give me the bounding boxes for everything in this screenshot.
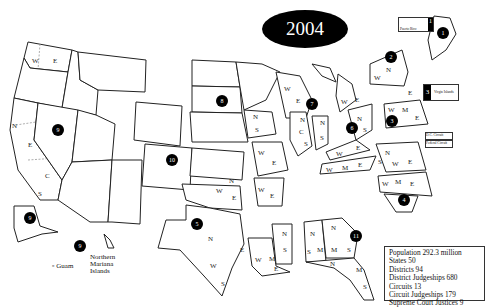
svg-text:W: W [382, 180, 389, 188]
svg-text:W: W [32, 57, 39, 65]
svg-text:N: N [330, 260, 335, 268]
svg-text:E: E [415, 114, 419, 122]
svg-text:S: S [307, 248, 311, 256]
svg-text:N: N [357, 115, 362, 123]
virgin-islands-inset: 3 Virgin Islands [423, 84, 459, 101]
svg-text:5: 5 [196, 221, 199, 227]
svg-text:6: 6 [351, 125, 354, 131]
svg-text:2: 2 [390, 54, 393, 60]
svg-text:11: 11 [353, 233, 359, 239]
svg-text:E: E [296, 97, 300, 105]
svg-text:N: N [229, 177, 234, 185]
state-minnesota [236, 62, 280, 110]
state-colorado [142, 144, 192, 190]
svg-text:W: W [392, 160, 399, 168]
svg-text:S: S [221, 280, 225, 288]
svg-text:E: E [355, 96, 359, 104]
svg-text:W: W [374, 74, 381, 82]
state-michigan-upper [312, 64, 336, 82]
svg-text:9: 9 [29, 215, 32, 221]
svg-text:N: N [12, 122, 17, 130]
state-kentucky [326, 140, 370, 160]
svg-text:E: E [270, 192, 274, 200]
svg-text:7: 7 [311, 101, 314, 107]
state-hawaii [104, 234, 114, 248]
svg-text:W: W [258, 149, 265, 157]
state-florida [306, 258, 374, 300]
svg-text:3: 3 [391, 118, 394, 124]
svg-text:N: N [300, 116, 305, 124]
puerto-rico-inset: Puerto Rico 1 [398, 17, 434, 32]
stat-supreme-court: Supreme Court Justices 9 [389, 299, 480, 307]
svg-text:W: W [216, 187, 223, 195]
federal-circuit-label: Federal Circuit [425, 140, 453, 148]
svg-text:S: S [347, 246, 351, 254]
state-utah [72, 110, 115, 162]
svg-text:N: N [385, 149, 390, 157]
state-missouri [252, 142, 288, 176]
state-wyoming [134, 102, 182, 146]
svg-text:N: N [331, 224, 336, 232]
state-virginias [376, 142, 426, 172]
dc-circuit-label: D.C. Circuit [425, 132, 453, 140]
svg-text:10: 10 [169, 157, 175, 163]
svg-text:E: E [28, 141, 32, 149]
svg-text:4: 4 [403, 197, 406, 203]
svg-text:W: W [388, 106, 395, 114]
svg-text:C: C [299, 128, 304, 136]
svg-text:M: M [395, 178, 402, 186]
state-alaska [14, 206, 58, 242]
svg-text:W: W [336, 150, 343, 158]
nmi-label: Northern Mariana Islands [90, 254, 124, 275]
svg-text:N: N [253, 113, 258, 121]
svg-text:N: N [310, 230, 315, 238]
state-north-dakota [192, 60, 240, 87]
guam-label: ▫ Guam [52, 262, 73, 270]
svg-text:M: M [331, 246, 338, 254]
svg-text:E: E [240, 246, 244, 254]
state-iowa [244, 110, 276, 138]
svg-text:S: S [38, 190, 42, 198]
svg-text:E: E [408, 158, 412, 166]
svg-text:S: S [378, 158, 382, 166]
virgin-islands-label: Virgin Islands [434, 90, 454, 94]
svg-text:M: M [402, 106, 409, 114]
state-new-mexico [108, 160, 142, 224]
svg-text:W: W [326, 166, 333, 174]
puerto-rico-label: Puerto Rico [400, 27, 417, 31]
svg-text:1: 1 [442, 30, 445, 36]
svg-text:E: E [356, 144, 360, 152]
svg-text:S: S [320, 134, 324, 142]
svg-text:M: M [356, 266, 363, 274]
svg-text:W: W [255, 256, 262, 264]
svg-text:M: M [342, 164, 349, 172]
svg-text:W: W [284, 85, 291, 93]
svg-text:E: E [232, 194, 236, 202]
svg-text:S: S [363, 126, 367, 134]
svg-text:S: S [304, 140, 308, 148]
svg-text:E: E [408, 89, 412, 97]
svg-text:S: S [283, 246, 287, 254]
svg-text:S: S [255, 126, 259, 134]
svg-text:9: 9 [79, 243, 82, 249]
statistics-box: Population 292.3 million States 50 Distr… [384, 246, 485, 301]
state-texas [158, 205, 244, 296]
year-badge: 2004 [262, 10, 348, 48]
state-wisconsin [276, 72, 312, 118]
state-kansas [190, 148, 244, 180]
svg-text:E: E [272, 159, 276, 167]
svg-text:E: E [410, 180, 414, 188]
svg-text:W: W [341, 98, 348, 106]
svg-text:W: W [258, 186, 265, 194]
svg-text:E: E [358, 161, 362, 169]
svg-text:M: M [317, 246, 324, 254]
svg-text:W: W [210, 262, 217, 270]
state-michigan-lower [336, 74, 356, 112]
svg-text:N: N [320, 119, 325, 127]
svg-text:C: C [45, 172, 50, 180]
svg-text:E: E [53, 57, 57, 65]
svg-text:N: N [282, 230, 287, 238]
svg-text:N: N [208, 235, 213, 243]
svg-text:9: 9 [57, 127, 60, 133]
state-nebraska [190, 112, 248, 142]
